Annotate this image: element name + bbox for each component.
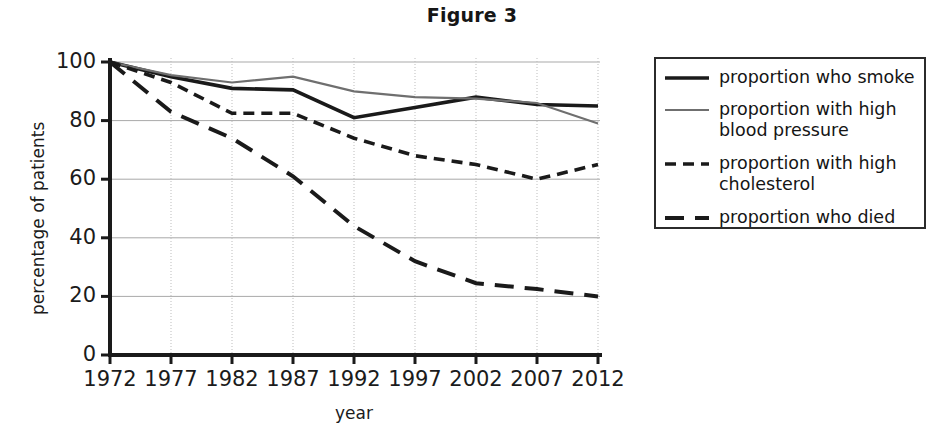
y-axis-title: percentage of patients	[28, 122, 48, 315]
legend-item-label: proportion who smoke	[719, 67, 915, 88]
y-tick-label: 60	[69, 168, 96, 189]
y-tick-label: 40	[69, 227, 96, 248]
legend-item-2: proportion with high cholesterol	[664, 153, 897, 195]
legend-item-3: proportion who died	[664, 207, 895, 228]
legend-line-swatch-icon	[664, 69, 710, 87]
legend-item-0: proportion who smoke	[664, 67, 915, 88]
legend-item-label: proportion with high blood pressure	[719, 99, 897, 141]
y-tick-label: 0	[83, 344, 96, 365]
legend-line-swatch-icon	[664, 209, 710, 227]
x-axis-title: year	[70, 403, 638, 423]
figure-3-chart: Figure 3 100806040200 197219771982198719…	[0, 0, 944, 436]
axis-ticks	[101, 62, 598, 364]
legend-item-1: proportion with high blood pressure	[664, 99, 897, 141]
y-tick-label: 80	[69, 110, 96, 131]
legend-item-label: proportion with high cholesterol	[719, 153, 897, 195]
chart-legend: proportion who smokeproportion with high…	[654, 57, 926, 229]
x-tick-label: 2012	[558, 369, 638, 390]
legend-item-label: proportion who died	[719, 207, 895, 228]
series-line-1	[110, 62, 598, 124]
y-tick-label: 100	[56, 51, 96, 72]
legend-line-swatch-icon	[664, 155, 710, 173]
legend-line-swatch-icon	[664, 101, 710, 119]
y-tick-label: 20	[69, 285, 96, 306]
